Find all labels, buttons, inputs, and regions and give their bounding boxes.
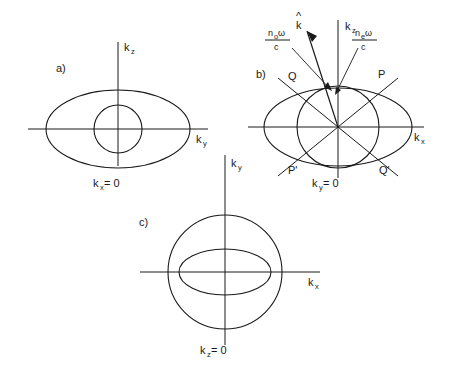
panel-c-caption: k z = 0 (200, 344, 227, 359)
panel-c-kx-sub: x (315, 282, 319, 291)
panel-c: c) k y k x k z = 0 (139, 155, 320, 359)
panel-a-caption-base: k (93, 177, 99, 189)
panel-b-extraordinary-leader-line (336, 48, 358, 93)
panel-b-id: b) (256, 68, 266, 80)
panel-c-id: c) (139, 216, 148, 228)
panel-b-point-Q-label: Q (288, 70, 297, 82)
panel-a-vertical-axis-label: k z (124, 41, 135, 56)
diagram-svg: a) k z k y k x = 0 (0, 0, 449, 371)
panel-a: a) k z k y k x = 0 (28, 41, 208, 192)
panel-a-ky-sub: y (203, 139, 207, 148)
panel-b-ne-den: c (361, 42, 366, 52)
panel-c-caption-tail: = 0 (211, 344, 227, 356)
panel-b-wave-vector-label: k ^ (296, 10, 302, 31)
panel-b-kz-sub: z (352, 26, 356, 35)
panel-a-caption: k x = 0 (93, 177, 120, 192)
panel-a-ky-base: k (196, 133, 202, 145)
panel-a-caption-tail: = 0 (104, 177, 120, 189)
panel-c-ky-base: k (231, 157, 237, 169)
panel-b-caption-tail: = 0 (323, 177, 339, 189)
panel-c-ky-sub: y (238, 163, 242, 172)
panel-b-ordinary-leader-line (292, 48, 330, 89)
panel-b: b) k ^ n o ω c n e ω c k z k (248, 10, 425, 192)
panel-b-point-P-label: P (378, 68, 385, 80)
panel-b-kx-sub: x (421, 137, 425, 146)
panel-b-point-Q-prime-label: Q' (379, 164, 390, 176)
panel-b-wave-vector-arrow (307, 31, 338, 127)
panel-b-horizontal-axis-label: k x (414, 131, 425, 146)
panel-b-no-num-tail: ω (278, 28, 285, 38)
panel-c-vertical-axis-label: k y (231, 157, 242, 172)
panel-a-id: a) (56, 62, 66, 74)
panel-c-horizontal-axis-label: k x (308, 276, 319, 291)
panel-b-caption: k y = 0 (312, 177, 339, 192)
panel-b-ne-num-tail: ω (365, 28, 372, 38)
panel-b-caption-base: k (312, 177, 318, 189)
panel-b-vertical-axis-label: k z (345, 20, 356, 35)
panel-a-kz-base: k (124, 41, 130, 53)
panel-b-kz-base: k (345, 20, 351, 32)
panel-b-no-num-base: n (268, 28, 273, 38)
panel-b-no-den: c (274, 42, 279, 52)
panel-c-caption-base: k (200, 344, 206, 356)
panel-b-ne-num-base: n (355, 28, 360, 38)
figure-canvas: a) k z k y k x = 0 (0, 0, 449, 371)
panel-b-khat-accent-icon: ^ (296, 10, 302, 22)
panel-b-kx-base: k (414, 131, 420, 143)
panel-a-kz-sub: z (131, 47, 135, 56)
panel-a-horizontal-axis-label: k y (196, 133, 207, 148)
panel-b-ordinary-index-annotation: n o ω c (265, 28, 290, 52)
panel-c-kx-base: k (308, 276, 314, 288)
panel-b-extraordinary-index-annotation: n e ω c (352, 28, 377, 52)
panel-b-point-P-prime-label: P' (288, 164, 297, 176)
